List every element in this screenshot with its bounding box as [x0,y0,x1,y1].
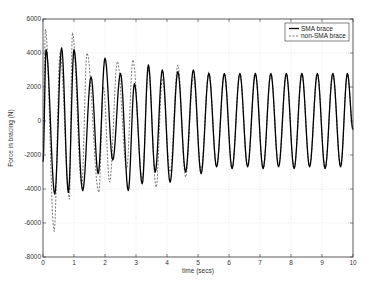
y-tick-label: -6000 [24,219,41,226]
y-tick-label: -8000 [24,253,41,260]
y-tick-label: 6000 [27,15,42,22]
chart-background [0,0,372,284]
x-tick-label: 2 [103,259,107,266]
x-tick-label: 9 [320,259,324,266]
y-tick-label: 4000 [27,49,42,56]
x-tick-label: 8 [289,259,293,266]
x-tick-label: 4 [165,259,169,266]
x-tick-label: 5 [196,259,200,266]
legend: SMA brace non-SMA brace [285,23,349,41]
y-tick-label: 2000 [27,83,42,90]
legend-label-sma-brace: SMA brace [301,25,333,32]
y-tick-label: -4000 [24,185,41,192]
x-tick-label: 0 [41,259,45,266]
legend-label-non-sma-brace: non-SMA brace [301,32,346,39]
x-tick-label: 7 [258,259,262,266]
x-axis-label: time (secs) [182,267,214,275]
y-axis-label: Force in bracing (N) [7,109,15,166]
x-tick-label: 6 [227,259,231,266]
x-tick-label: 10 [349,259,357,266]
x-tick-label: 3 [134,259,138,266]
y-tick-label: -2000 [24,151,41,158]
y-tick-label: 0 [37,117,41,124]
x-tick-label: 1 [72,259,76,266]
chart: 012345678910-8000-6000-4000-200002000400… [0,0,372,284]
